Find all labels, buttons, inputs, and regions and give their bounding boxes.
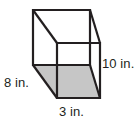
back-face bbox=[33, 10, 90, 65]
geometry-figure: 8 in. 3 in. 10 in. bbox=[0, 0, 140, 125]
edge-top-left-receding bbox=[33, 10, 57, 43]
dimension-label-width: 3 in. bbox=[59, 104, 84, 119]
edge-top-right-receding bbox=[90, 10, 100, 43]
dimension-label-depth: 8 in. bbox=[4, 75, 29, 90]
dimension-label-height: 10 in. bbox=[102, 56, 134, 71]
base-face-shaded bbox=[33, 65, 100, 98]
